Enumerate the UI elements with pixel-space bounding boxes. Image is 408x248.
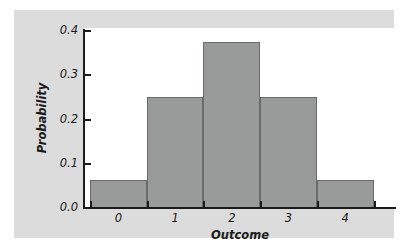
figure: 0.00.10.20.30.4 01234 Outcome Probabilit…	[0, 0, 408, 248]
x-axis-tick	[317, 201, 319, 207]
y-axis-title: Probability	[35, 43, 49, 193]
bar	[203, 42, 260, 208]
y-axis-tick-label: 0.4	[38, 23, 78, 37]
bar	[90, 180, 147, 208]
chart-panel: 0.00.10.20.30.4 01234 Outcome Probabilit…	[14, 10, 394, 238]
y-axis-tick	[85, 30, 91, 32]
y-axis-tick	[85, 119, 91, 121]
bar	[147, 97, 204, 208]
x-axis-tick-label: 4	[325, 211, 365, 225]
bar	[317, 180, 374, 208]
x-axis-tick-label: 1	[155, 211, 195, 225]
x-axis-tick	[90, 201, 92, 207]
x-axis-tick	[374, 201, 376, 207]
x-axis-tick-label: 0	[98, 211, 138, 225]
x-axis-spine	[83, 207, 396, 209]
y-axis-tick-label: 0.0	[38, 200, 78, 214]
x-axis-tick	[203, 201, 205, 207]
x-axis-tick	[260, 201, 262, 207]
x-axis-title: Outcome	[84, 228, 396, 242]
y-axis-tick	[85, 74, 91, 76]
x-axis-tick	[147, 201, 149, 207]
x-axis-tick-label: 2	[212, 211, 252, 225]
x-axis-tick-label: 3	[269, 211, 309, 225]
bar	[260, 97, 317, 208]
y-axis-tick	[85, 207, 91, 209]
y-axis-tick	[85, 163, 91, 165]
